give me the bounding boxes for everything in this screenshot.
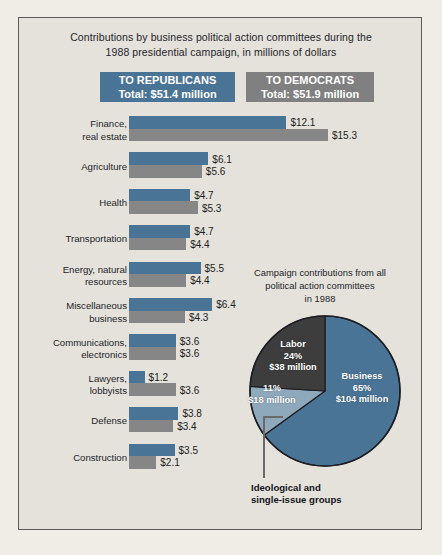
bar-label-line-1: Construction	[73, 452, 127, 463]
bar-value-label: $4.7	[190, 190, 213, 201]
pie-slice-label-business: Business 65% $104 million	[325, 371, 399, 406]
bar-fill	[129, 420, 173, 433]
bar-value-label: $3.5	[175, 444, 198, 455]
legend-democrats-title: TO DEMOCRATS	[246, 73, 374, 87]
page-title: Contributions by business political acti…	[19, 30, 423, 60]
pie-chart-title: Campaign contributions from all politica…	[225, 266, 415, 305]
bar-fill	[129, 334, 176, 347]
bar-value-label: $3.6	[176, 335, 199, 346]
bar-label-line-2: real estate	[82, 130, 127, 141]
pie-ideological-amount: $18 million	[248, 395, 296, 405]
callout-line-2: single-issue groups	[251, 494, 342, 505]
infographic-panel: Contributions by business political acti…	[18, 17, 422, 530]
bar-value-label: $5.5	[201, 262, 224, 273]
legend-republicans: TO REPUBLICANS Total: $51.4 million	[100, 72, 235, 102]
legend-democrats-total: Total: $51.9 million	[246, 87, 374, 101]
bar-label-line-2: business	[89, 312, 127, 323]
bar-fill	[129, 298, 212, 311]
bar-fill	[129, 116, 286, 129]
bar-label-line-1: Health	[99, 197, 127, 208]
bar-label-line-2: electronics	[81, 349, 127, 360]
bar-label-line-1: Transportation	[65, 233, 127, 244]
bar-value-label: $3.4	[173, 421, 196, 432]
bar-fill	[129, 347, 176, 360]
bar-category-label: Defense	[0, 415, 127, 427]
bar-fill	[129, 129, 328, 142]
leader-line-vertical	[263, 416, 265, 478]
pie-slice-label-labor: Labor 24% $38 million	[261, 339, 325, 374]
bar-label-line-2: resources	[85, 276, 127, 287]
bar-fill	[129, 165, 202, 178]
bar-label-line-2: lobbyists	[90, 385, 127, 396]
pie-labor-pct: 24%	[284, 351, 302, 361]
bar-value-label: $3.6	[176, 384, 199, 395]
bar-category-label: Finance,real estate	[0, 118, 127, 143]
bar-category-label: Lawyers,lobbyists	[0, 373, 127, 398]
bar-category-label: Transportation	[0, 233, 127, 245]
title-line-1: Contributions by business political acti…	[70, 31, 372, 43]
pie-title-line-2: political action committees	[265, 280, 374, 291]
bar-value-label: $4.3	[185, 311, 208, 322]
pie-ideological-pct: 11%	[263, 383, 281, 393]
bar-fill	[129, 444, 175, 457]
bar-value-label: $5.6	[202, 166, 225, 177]
bar-fill	[129, 274, 186, 287]
bar-value-label: $2.1	[156, 457, 179, 468]
bar-value-label: $3.8	[178, 408, 201, 419]
leader-line-horizontal	[263, 416, 283, 418]
bar-category-label: Health	[0, 197, 127, 209]
bar-label-line-1: Communications,	[53, 336, 127, 347]
bar-fill	[129, 371, 145, 384]
bar-value-label: $4.4	[186, 275, 209, 286]
bar-label-line-1: Finance,	[90, 118, 127, 129]
title-line-2: 1988 presidential campaign, in millions …	[106, 46, 337, 58]
legend-democrats: TO DEMOCRATS Total: $51.9 million	[246, 72, 374, 102]
pie-title-line-3: in 1988	[305, 293, 336, 304]
bar-label-line-1: Agriculture	[81, 160, 127, 171]
bar-category-label: Miscellaneousbusiness	[0, 300, 127, 325]
pie-chart-section: Campaign contributions from all politica…	[225, 266, 423, 531]
bar-label-line-1: Lawyers,	[89, 373, 127, 384]
bar-fill	[129, 383, 176, 396]
pie-business-amount: $104 million	[336, 394, 389, 404]
bar-fill	[129, 201, 198, 214]
bar-value-label: $6.1	[208, 153, 231, 164]
pie-callout-ideological: Ideological and single-issue groups	[251, 482, 342, 506]
bar-value-label: $15.3	[328, 129, 357, 140]
bar-category-label: Construction	[0, 452, 127, 464]
bar-fill	[129, 311, 185, 324]
bar-value-label: $5.3	[198, 202, 221, 213]
bar-fill	[129, 238, 186, 251]
bar-category-label: Energy, naturalresources	[0, 263, 127, 288]
bar-fill	[129, 152, 208, 165]
callout-leader-line	[253, 416, 283, 478]
pie-slice-label-ideological: 11% $18 million	[241, 383, 303, 406]
bar-value-label: $4.7	[190, 226, 213, 237]
pie-labor-name: Labor	[280, 339, 306, 349]
bar-value-label: $12.1	[286, 117, 315, 128]
legend-republicans-title: TO REPUBLICANS	[100, 73, 235, 87]
bar-value-label: $3.6	[176, 348, 199, 359]
bar-label-line-1: Defense	[91, 415, 127, 426]
bar-category-label: Communications,electronics	[0, 336, 127, 361]
bar-label-line-1: Miscellaneous	[66, 300, 127, 311]
bar-row: Health$4.7$5.3	[19, 185, 423, 221]
pie-business-name: Business	[342, 371, 383, 381]
pie-labor-amount: $38 million	[269, 362, 317, 372]
bar-row: Finance,real estate$12.1$15.3	[19, 112, 423, 148]
bar-fill	[129, 262, 201, 275]
bar-value-label: $1.2	[145, 372, 168, 383]
bar-fill	[129, 456, 156, 469]
bar-value-label: $4.4	[186, 239, 209, 250]
bar-fill	[129, 407, 178, 420]
bar-row: Agriculture$6.1$5.6	[19, 148, 423, 184]
pie-title-line-1: Campaign contributions from all	[254, 267, 386, 278]
legend: TO REPUBLICANS Total: $51.4 million TO D…	[19, 72, 423, 102]
bar-row: Transportation$4.7$4.4	[19, 221, 423, 257]
pie-business-pct: 65%	[353, 383, 371, 393]
bar-fill	[129, 225, 190, 238]
bar-label-line-1: Energy, natural	[63, 263, 127, 274]
bar-fill	[129, 189, 190, 202]
bar-category-label: Agriculture	[0, 160, 127, 172]
callout-line-1: Ideological and	[251, 482, 321, 493]
